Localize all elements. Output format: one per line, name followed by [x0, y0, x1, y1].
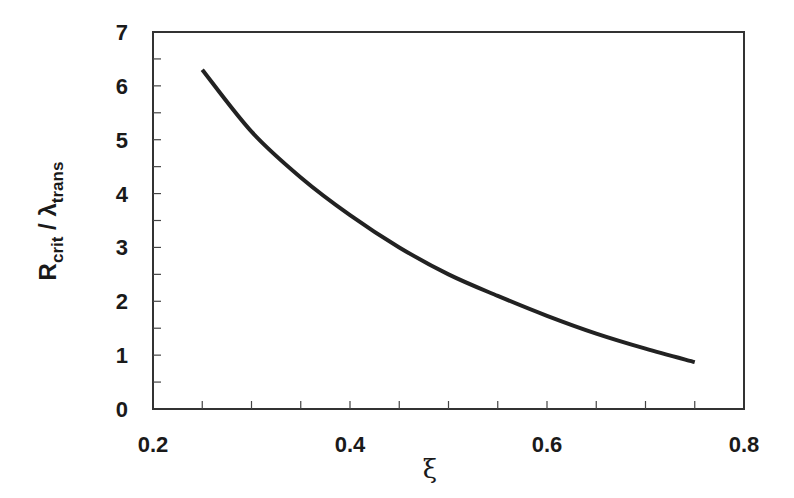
y-title-separator: / [34, 217, 61, 237]
y-tick-label: 5 [116, 128, 128, 153]
y-axis-tick-labels: 01234567 [116, 20, 129, 422]
data-series [202, 70, 695, 362]
series-line [202, 70, 695, 362]
y-tick-label: 7 [116, 20, 128, 45]
y-tick-label: 0 [116, 397, 128, 422]
y-title-sub-trans: trans [48, 162, 67, 204]
x-tick-label: 0.8 [729, 432, 760, 457]
y-tick-label: 6 [116, 74, 128, 99]
line-chart: 01234567 0.20.40.60.8 ξ Rcrit / λtrans [0, 0, 794, 498]
y-title-sub-crit: crit [48, 236, 67, 263]
y-axis-title: Rcrit / λtrans [34, 162, 67, 281]
y-tick-label: 2 [116, 289, 128, 314]
x-tick-label: 0.4 [335, 432, 366, 457]
x-axis-tick-labels: 0.20.40.60.8 [138, 432, 760, 457]
x-tick-label: 0.2 [138, 432, 169, 457]
y-tick-label: 4 [116, 182, 129, 207]
x-tick-label: 0.6 [532, 432, 563, 457]
y-tick-label: 1 [116, 343, 128, 368]
y-tick-label: 3 [116, 235, 128, 260]
x-axis-title: ξ [423, 454, 437, 484]
y-title-main-r: R [34, 263, 61, 280]
y-title-main-lambda: λ [34, 203, 61, 216]
